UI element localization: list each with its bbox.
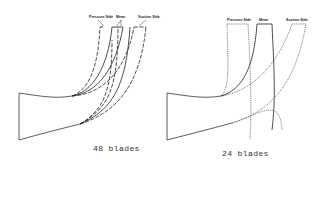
label-mean-right: Mean xyxy=(259,18,268,22)
label-leaders-left xyxy=(98,20,146,26)
caption-24-blades: 24 blades xyxy=(222,149,269,158)
panel-48-blades: Pressure Side Mean Suction Side 48 blade… xyxy=(19,15,160,153)
label-suction-side-right: Suction Side xyxy=(286,18,308,22)
hub-outline-right xyxy=(167,93,232,140)
panel-24-blades: Pressure Side Mean Suction Side 24 blade… xyxy=(167,18,308,158)
caption-48-blades: 48 blades xyxy=(93,144,140,153)
label-suction-side-left: Suction Side xyxy=(138,15,160,19)
blade-diagram-figure: Pressure Side Mean Suction Side 48 blade… xyxy=(0,0,319,197)
hub-outline-left xyxy=(19,93,80,140)
label-pressure-side-right: Pressure Side xyxy=(227,18,251,22)
label-mean-left: Mean xyxy=(116,15,125,19)
label-pressure-side-left: Pressure Side xyxy=(89,15,113,19)
blade-curves-right xyxy=(221,24,306,140)
blade-curves-left xyxy=(72,27,146,124)
